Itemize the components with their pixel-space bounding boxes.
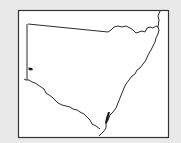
- map-figure: [0, 0, 181, 143]
